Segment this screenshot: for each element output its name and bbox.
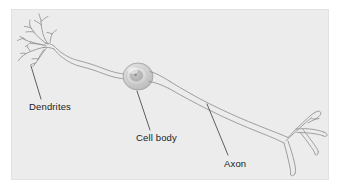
terminal-b-bulb xyxy=(323,132,327,136)
dendrite-twig-7a xyxy=(38,50,44,60)
axon-shaft-upper xyxy=(170,82,288,138)
dendrite-twig-4a xyxy=(27,46,31,52)
terminal-d-bulb xyxy=(315,152,318,155)
label-axon: Axon xyxy=(224,158,246,169)
dendrite-branch-5 xyxy=(33,49,46,67)
terminal-c-left xyxy=(284,143,291,175)
dendrite-twig-3c xyxy=(18,39,23,41)
leader-line-axon xyxy=(207,104,228,155)
dendrite-twig-7b xyxy=(31,44,43,46)
nucleolus xyxy=(134,73,137,76)
dendrite-twig-3a xyxy=(26,42,32,47)
dendrite-twig-4c xyxy=(19,57,23,61)
axon-hillock-lower xyxy=(149,82,169,89)
soma-highlight xyxy=(128,67,138,74)
axon-shaft-lower xyxy=(169,89,284,144)
terminal-c-right xyxy=(288,141,296,174)
cell-body-group xyxy=(123,63,153,90)
dendrite-twig-6b xyxy=(52,30,57,34)
label-dendrites: Dendrites xyxy=(29,101,71,112)
leader-line-cell-body xyxy=(137,91,150,130)
label-cell-body: Cell body xyxy=(136,132,177,143)
dendrite-twig-1b xyxy=(41,17,48,22)
dendrite-twig-6a xyxy=(50,34,52,43)
dendrite-twig-6c xyxy=(47,33,52,35)
axon-terminals-group xyxy=(284,111,327,176)
dendrite-twig-1a xyxy=(35,21,42,26)
dendrite-branch-2 xyxy=(30,26,47,44)
dendrite-hub-b xyxy=(44,47,55,49)
leader-line-dendrites xyxy=(31,66,41,99)
terminal-a-bulb xyxy=(312,111,321,119)
dendrites-group xyxy=(18,14,129,79)
panel-border xyxy=(12,10,329,180)
terminal-b-upper xyxy=(296,129,324,132)
dendrite-trunk-upper xyxy=(54,46,127,74)
terminal-a-lower xyxy=(286,118,312,141)
neuron-diagram-figure: Dendrites Cell body Axon xyxy=(0,0,341,189)
neuron-illustration: Dendrites Cell body Axon xyxy=(0,0,341,189)
terminal-c-bulb xyxy=(291,174,296,176)
dendrite-twig-1c xyxy=(39,14,41,20)
